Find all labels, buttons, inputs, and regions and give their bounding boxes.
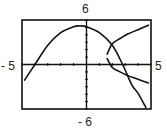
curve-line — [25, 26, 146, 108]
graph-plot — [0, 0, 167, 133]
axes — [22, 20, 151, 109]
curve-line — [107, 25, 148, 54]
curve-line — [107, 59, 148, 83]
